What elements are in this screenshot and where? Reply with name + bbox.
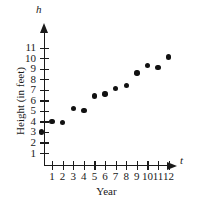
x-tick-11 xyxy=(158,161,159,170)
x-tick-6 xyxy=(105,161,106,170)
x-tick-3 xyxy=(73,161,74,170)
x-tick-8 xyxy=(126,161,127,170)
x-tick-2 xyxy=(63,161,64,170)
x-tick-12 xyxy=(169,161,170,170)
x-tick-1 xyxy=(52,161,53,170)
y-tick-7 xyxy=(40,90,49,91)
data-point xyxy=(81,108,86,113)
y-tick-6 xyxy=(40,100,49,101)
y-tick-2 xyxy=(40,142,49,143)
data-point xyxy=(155,65,160,70)
data-point xyxy=(102,91,107,96)
y-tick-1 xyxy=(40,153,49,154)
y-axis-variable-label: h xyxy=(36,3,42,15)
x-tick-4 xyxy=(84,161,85,170)
y-axis-arrow-icon xyxy=(40,23,48,33)
y-tick-9 xyxy=(40,69,49,70)
data-point xyxy=(134,70,139,75)
y-tick-10 xyxy=(40,58,49,59)
x-tick-7 xyxy=(116,161,117,170)
x-tick-10 xyxy=(147,161,148,170)
data-point xyxy=(145,63,150,68)
x-tick-9 xyxy=(137,161,138,170)
scatter-plot: h t 1234567891011 123456789101112 Year H… xyxy=(0,0,198,212)
data-point xyxy=(49,119,54,124)
x-tick-label-12: 12 xyxy=(161,171,177,182)
y-axis-title: Height (in feet) xyxy=(14,46,26,156)
y-tick-5 xyxy=(40,111,49,112)
y-tick-8 xyxy=(40,79,49,80)
y-tick-11 xyxy=(40,48,49,49)
data-point xyxy=(124,83,129,88)
y-axis-line xyxy=(44,32,45,166)
data-point xyxy=(166,54,171,59)
data-point xyxy=(92,93,97,98)
data-point xyxy=(113,86,118,91)
y-tick-3 xyxy=(40,132,49,133)
x-axis-title: Year xyxy=(44,185,169,197)
data-point xyxy=(71,106,76,111)
x-axis-variable-label: t xyxy=(180,154,183,166)
x-tick-5 xyxy=(94,161,95,170)
data-point xyxy=(60,120,65,125)
y-tick-4 xyxy=(40,121,49,122)
